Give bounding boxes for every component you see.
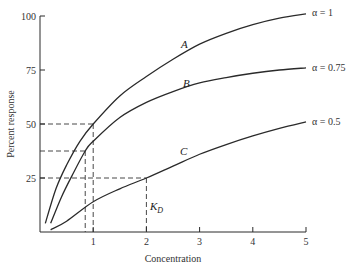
curve-c: [51, 122, 306, 230]
x-axis-label: Concentration: [145, 253, 202, 264]
curve-label-b: B: [183, 77, 190, 89]
x-tick-label: 3: [197, 236, 202, 247]
legend-alpha-1: α = 1: [312, 7, 333, 18]
x-ticks: 12345: [91, 227, 309, 247]
curve-b: [51, 68, 306, 224]
y-axis-label: Percent response: [5, 90, 16, 158]
dose-response-chart: 12345 255075100 A B C KD α = 1 α = 0.75 …: [0, 0, 351, 268]
x-tick-label: 5: [304, 236, 309, 247]
x-tick-label: 4: [250, 236, 255, 247]
curve-a: [45, 14, 306, 224]
y-ticks: 255075100: [21, 11, 45, 184]
y-tick-label: 50: [26, 119, 36, 130]
curve-label-c: C: [180, 145, 188, 157]
curves: [45, 14, 306, 230]
kd-label: KD: [149, 200, 163, 215]
y-tick-label: 25: [26, 173, 36, 184]
legend-alpha-0-5: α = 0.5: [312, 116, 340, 127]
reference-lines: [40, 124, 146, 232]
x-tick-label: 2: [144, 236, 149, 247]
legend-alpha-0-75: α = 0.75: [312, 62, 345, 73]
kd-label-subscript: D: [156, 206, 163, 215]
x-tick-label: 1: [91, 236, 96, 247]
curve-label-a: A: [180, 38, 188, 50]
y-tick-label: 75: [26, 65, 36, 76]
y-tick-label: 100: [21, 11, 36, 22]
